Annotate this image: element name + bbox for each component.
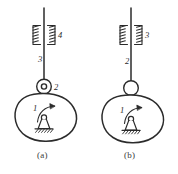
link-label-a-1: 1 [33, 103, 37, 113]
follower-head-b [124, 81, 139, 96]
link-label-b-1: 1 [120, 105, 124, 115]
link-label-b-3: 3 [145, 30, 149, 40]
link-label-a-4: 4 [58, 30, 62, 40]
link-label-a-2: 2 [54, 82, 58, 92]
caption-panel-b: (b) [124, 150, 135, 160]
caption-panel-a: (a) [37, 150, 48, 160]
cam-mechanism-figure [0, 0, 178, 174]
figure-background [0, 0, 178, 174]
link-label-a-3: 3 [38, 54, 42, 64]
roller-pin-a [41, 84, 46, 89]
link-label-b-2: 2 [125, 56, 129, 66]
